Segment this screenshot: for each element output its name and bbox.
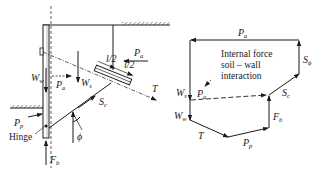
label-P_a-top: Pa — [133, 47, 143, 59]
polygon-label-P_a-internal: Pa — [196, 88, 206, 100]
polygon-label-W_w: Ww — [174, 110, 187, 122]
polygon-T — [190, 120, 228, 137]
label-hinge: Hinge — [9, 132, 32, 142]
label-P_p: Pp — [13, 117, 24, 129]
label-half-1: l/2 — [106, 53, 117, 64]
label-W_w: Ww — [31, 72, 44, 84]
arrow-P_p — [28, 114, 42, 117]
force-diagram: Ww Pa Ws Pa l/2 l/2 T Sc Pp Hinge ϕ Fb — [0, 0, 325, 172]
annotation-line-1: Internal force — [221, 49, 272, 59]
polygon-label-F_b: Fb — [272, 111, 283, 123]
annotation-line-2: soil – wall — [221, 60, 261, 70]
left-figure: Ww Pa Ws Pa l/2 l/2 T Sc Pp Hinge ϕ Fb — [9, 6, 170, 168]
polygon-label-T: T — [198, 130, 205, 141]
label-phi: ϕ — [77, 131, 82, 142]
label-F_b: Fb — [49, 154, 60, 166]
anchor-head — [40, 48, 43, 55]
polygon-P_p — [228, 128, 268, 137]
label-half-2: l/2 — [124, 59, 135, 70]
polygon-label-P_p: Pp — [242, 137, 253, 149]
label-T: T — [152, 83, 159, 94]
ground-hatch-top — [122, 22, 170, 25]
hinge-point — [44, 124, 47, 127]
label-S_c: Sc — [99, 96, 107, 108]
force-polygon: Internal force soil – wall interaction P… — [174, 27, 312, 149]
polygon-label-S_phi: Sϕ — [303, 54, 312, 66]
polygon-label-P_a: Pa — [237, 27, 247, 39]
ground-hatch-bottom — [10, 105, 43, 108]
annotation-line-3: interaction — [221, 71, 262, 81]
label-P_a-wall: Pa — [55, 79, 65, 91]
internal-force-leader — [205, 80, 211, 86]
polygon-label-S_c: Sc — [282, 87, 290, 99]
polygon-label-W_s: Ws — [176, 87, 187, 99]
arrow-S_c — [78, 96, 95, 108]
label-W_s: Ws — [81, 77, 92, 89]
